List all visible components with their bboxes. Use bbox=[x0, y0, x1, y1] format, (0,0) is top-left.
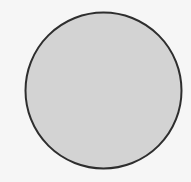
diagram-canvas bbox=[0, 0, 191, 182]
circle-figure bbox=[0, 0, 191, 182]
